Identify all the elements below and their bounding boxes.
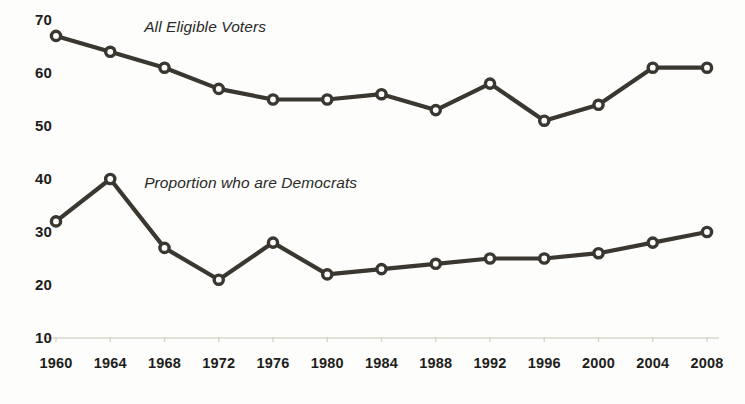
data-point-marker[interactable]	[323, 95, 332, 104]
data-point-marker[interactable]	[323, 270, 332, 279]
y-axis-tick-label: 20	[18, 276, 52, 293]
data-point-marker[interactable]	[485, 254, 494, 263]
x-axis-tick-label: 1992	[463, 355, 517, 371]
series-lines	[56, 36, 707, 280]
data-point-marker[interactable]	[540, 116, 549, 125]
y-axis-tick-label: 50	[18, 117, 52, 134]
data-point-marker[interactable]	[431, 106, 440, 115]
x-axis-tick-label: 1972	[192, 355, 246, 371]
data-point-marker[interactable]	[594, 100, 603, 109]
data-point-marker[interactable]	[214, 275, 223, 284]
data-point-marker[interactable]	[268, 95, 277, 104]
data-point-marker[interactable]	[106, 47, 115, 56]
x-axis-tick-label: 2000	[572, 355, 626, 371]
data-point-marker[interactable]	[160, 63, 169, 72]
data-point-marker[interactable]	[702, 227, 711, 236]
series-markers	[51, 31, 711, 284]
y-axis-tick-label: 40	[18, 170, 52, 187]
data-point-marker[interactable]	[702, 63, 711, 72]
x-axis-tick-label: 1984	[355, 355, 409, 371]
series-line-0	[56, 36, 707, 121]
series-annotation-label: All Eligible Voters	[144, 18, 266, 36]
data-point-marker[interactable]	[377, 265, 386, 274]
y-axis-tick-label: 10	[18, 329, 52, 346]
data-point-marker[interactable]	[106, 174, 115, 183]
data-point-marker[interactable]	[214, 84, 223, 93]
data-point-marker[interactable]	[268, 238, 277, 247]
x-axis-tick-label: 2004	[626, 355, 680, 371]
x-axis-tick-label: 2008	[680, 355, 734, 371]
data-point-marker[interactable]	[51, 217, 60, 226]
data-point-marker[interactable]	[160, 243, 169, 252]
x-axis-tick-label: 1964	[83, 355, 137, 371]
x-axis-tick-label: 1976	[246, 355, 300, 371]
x-axis-tick-label: 1996	[517, 355, 571, 371]
series-annotation-label: Proportion who are Democrats	[144, 174, 357, 192]
data-point-marker[interactable]	[648, 238, 657, 247]
data-point-marker[interactable]	[51, 31, 60, 40]
y-axis-tick-label: 70	[18, 11, 52, 28]
data-point-marker[interactable]	[594, 249, 603, 258]
x-axis-tick-label: 1988	[409, 355, 463, 371]
x-axis-tick-label: 1968	[138, 355, 192, 371]
chart-plot-area	[0, 0, 745, 404]
data-point-marker[interactable]	[377, 90, 386, 99]
data-point-marker[interactable]	[648, 63, 657, 72]
data-point-marker[interactable]	[485, 79, 494, 88]
chart-container: 70605040302010 1960196419681972197619801…	[0, 0, 745, 404]
x-axis-line	[46, 337, 719, 342]
x-axis-tick-label: 1980	[300, 355, 354, 371]
y-axis-tick-label: 60	[18, 64, 52, 81]
data-point-marker[interactable]	[431, 259, 440, 268]
y-axis-tick-label: 30	[18, 223, 52, 240]
x-axis-tick-label: 1960	[29, 355, 83, 371]
data-point-marker[interactable]	[540, 254, 549, 263]
